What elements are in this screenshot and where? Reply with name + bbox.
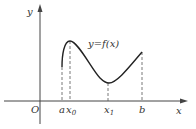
- function-graph: y x O y=f(x) a x0 x1 b: [0, 0, 196, 129]
- x-axis-label: x: [176, 105, 182, 116]
- y-axis-arrow-icon: [38, 4, 43, 12]
- tick-label-x0: x0: [66, 104, 77, 117]
- origin-label: O: [31, 104, 39, 115]
- curve-label: y=f(x): [87, 38, 119, 49]
- tick-label-a: a: [59, 104, 65, 115]
- tick-label-b: b: [139, 104, 145, 115]
- x-axis-arrow-icon: [180, 99, 188, 104]
- tick-label-x1: x1: [104, 104, 114, 117]
- y-axis-label: y: [26, 6, 33, 17]
